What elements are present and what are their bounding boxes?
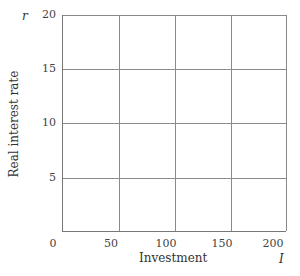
x-tick-200: 200 — [258, 237, 288, 250]
y-tick-15: 15 — [26, 62, 56, 75]
plot-area — [62, 15, 286, 232]
x-axis-label: Investment — [139, 251, 207, 265]
y-axis-label: Real interest rate — [7, 71, 21, 178]
x-tick-50: 50 — [96, 237, 126, 250]
gridline-v-200 — [286, 15, 287, 231]
gridline-v-100 — [175, 15, 176, 231]
y-tick-5: 5 — [26, 171, 56, 184]
y-tick-10: 10 — [26, 116, 56, 129]
gridline-v-50 — [119, 15, 120, 231]
x-tick-100: 100 — [151, 237, 181, 250]
x-axis-symbol: I — [279, 252, 284, 266]
y-tick-20: 20 — [26, 8, 56, 21]
x-tick-0: 0 — [38, 237, 68, 250]
gridline-v-150 — [231, 15, 232, 231]
x-tick-150: 150 — [207, 237, 237, 250]
